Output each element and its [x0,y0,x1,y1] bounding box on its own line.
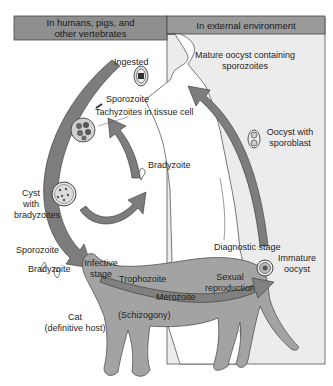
label-cat-line1: Cat [40,312,110,322]
tachyzoite-tissue-cell-icon [71,118,95,142]
label-sporozoite-left: Sporozoite [16,245,59,255]
label-mature-oocyst-line1: Mature oocyst containing [185,50,305,60]
label-bradyzoite-left: Bradyzoite [28,264,71,274]
label-trophozoite: Trophozoite [119,274,166,284]
label-sexual-line1: Sexual [200,272,260,282]
arrow-ingestion-to-cat [44,60,120,268]
label-infective-line1: Infective [76,258,126,268]
label-cat-line2: (definitive host) [40,323,110,333]
toxoplasma-life-cycle-diagram: In humans, pigs, and other vertebrates I… [0,0,333,386]
label-sexual-line2: reproduction [200,283,260,293]
bradyzoite-icon-mid [140,168,146,180]
label-sporozoite-top: Sporozoite [106,94,149,104]
cyst-with-bradyzoites-icon [52,182,76,206]
label-immature-oocyst-line1: Immature [272,253,322,263]
label-tachyzoites-tissue-cell: Tachyzoites in tissue cell [95,107,194,117]
label-cyst-line2: with [8,199,54,209]
label-oocyst-sporoblast-line2: sporoblast [255,138,325,148]
label-immature-oocyst-line2: oocyst [272,264,322,274]
label-mature-oocyst-line2: sporozoites [185,61,305,71]
label-schizogony: (Schizogony) [118,310,171,320]
mature-oocyst-icon [134,66,148,86]
header-humans-line2: other vertebrates [14,28,167,39]
arrow-cyst-to-bradyzoite [80,192,146,224]
label-cyst-line3: bradyzoites [14,210,60,220]
label-ingested: Ingested [114,57,149,67]
label-bradyzoite-mid: Bradyzoite [148,160,191,170]
header-humans-line1: In humans, pigs, and [14,17,167,28]
label-cyst-line1: Cyst [8,188,54,198]
arrow-bradyzoite-to-tachyzoite [108,118,140,178]
label-diagnostic-stage: Diagnostic stage [214,242,281,252]
label-merozoite: Merozoite [156,292,196,302]
header-external-environment: In external environment [167,20,325,31]
label-oocyst-sporoblast-line1: Oocyst with [255,127,325,137]
